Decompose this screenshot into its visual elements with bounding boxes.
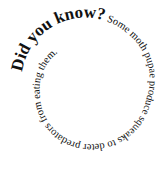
headline: Did you know? bbox=[7, 2, 107, 73]
spiral-text-graphic: Did you know? Some moth pupae produce sq… bbox=[0, 0, 158, 175]
spiral-text: Did you know? Some moth pupae produce sq… bbox=[7, 2, 158, 153]
